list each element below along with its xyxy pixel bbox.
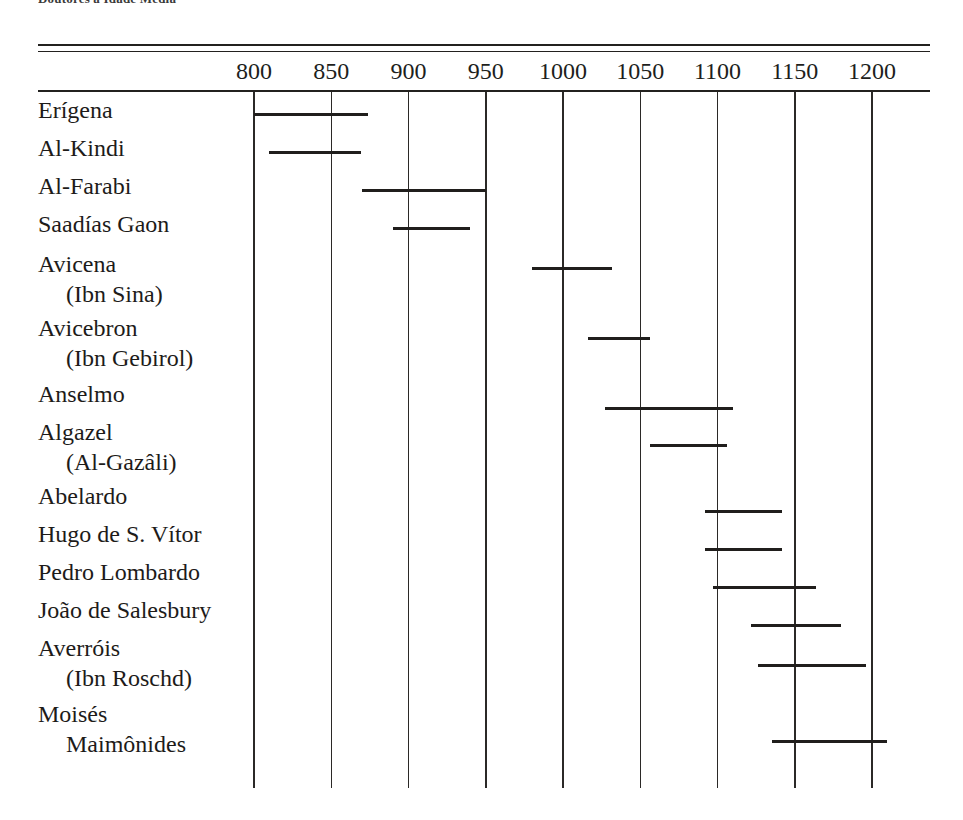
- lifespan-bar: [650, 444, 727, 447]
- row-label: João de Salesbury: [38, 596, 211, 624]
- x-axis-tick-950: 950: [468, 56, 504, 86]
- timeline-chart: Doutores a Idade Media 80085090095010001…: [0, 0, 963, 820]
- row-name: Moisés: [38, 701, 107, 727]
- row-name: Al-Farabi: [38, 173, 131, 199]
- header-rule-lower: [38, 51, 930, 52]
- row-label: Al-Farabi: [38, 172, 131, 200]
- row-name: Abelardo: [38, 483, 127, 509]
- lifespan-bar: [713, 586, 817, 589]
- row-label: Abelardo: [38, 482, 127, 510]
- x-axis-tick-900: 900: [391, 56, 427, 86]
- row-subname: (Al-Gazâli): [38, 448, 177, 476]
- row-name: Avicena: [38, 251, 116, 277]
- row-name: Pedro Lombardo: [38, 559, 200, 585]
- x-axis-tick-1000: 1000: [539, 56, 587, 86]
- row-label: Hugo de S. Vítor: [38, 520, 202, 548]
- lifespan-bar: [269, 151, 360, 154]
- row-subname: (Ibn Roschd): [38, 664, 192, 692]
- header-rule-upper: [38, 44, 930, 46]
- x-axis-tick-1150: 1150: [771, 56, 818, 86]
- row-name: João de Salesbury: [38, 597, 211, 623]
- row-subname: (Ibn Gebirol): [38, 344, 193, 372]
- x-axis-tick-1050: 1050: [616, 56, 664, 86]
- row-subname: Maimônides: [38, 730, 186, 758]
- lifespan-bar: [532, 267, 612, 270]
- row-label: Al-Kindi: [38, 134, 125, 162]
- row-label: MoisésMaimônides: [38, 700, 186, 758]
- x-axis-tick-800: 800: [236, 56, 272, 86]
- lifespan-bar: [588, 337, 650, 340]
- lifespan-bar: [605, 407, 733, 410]
- cropped-caption: Doutores a Idade Media: [38, 0, 438, 5]
- row-label: Algazel(Al-Gazâli): [38, 418, 177, 476]
- row-name: Al-Kindi: [38, 135, 125, 161]
- x-axis-tick-1100: 1100: [694, 56, 741, 86]
- row-label: Avicebron(Ibn Gebirol): [38, 314, 193, 372]
- row-label: Pedro Lombardo: [38, 558, 200, 586]
- lifespan-bar: [705, 548, 782, 551]
- row-label: Averróis(Ibn Roschd): [38, 634, 192, 692]
- row-name: Hugo de S. Vítor: [38, 521, 202, 547]
- lifespan-bar: [758, 664, 866, 667]
- row-subname: (Ibn Sina): [38, 280, 163, 308]
- lifespan-bar: [751, 624, 841, 627]
- row-name: Erígena: [38, 97, 113, 123]
- lifespan-bar: [705, 510, 782, 513]
- x-axis-tick-labels: 80085090095010001050110011501200: [0, 56, 963, 88]
- x-axis-tick-850: 850: [313, 56, 349, 86]
- row-name: Saadías Gaon: [38, 211, 169, 237]
- row-name: Anselmo: [38, 381, 125, 407]
- row-name: Averróis: [38, 635, 120, 661]
- row-name: Avicebron: [38, 315, 138, 341]
- row-label: Anselmo: [38, 380, 125, 408]
- lifespan-bar: [772, 740, 888, 743]
- row-name: Algazel: [38, 419, 113, 445]
- row-label: Erígena: [38, 96, 113, 124]
- lifespan-bar: [393, 227, 470, 230]
- x-axis-tick-1200: 1200: [848, 56, 896, 86]
- row-label: Avicena(Ibn Sina): [38, 250, 163, 308]
- row-label: Saadías Gaon: [38, 210, 169, 238]
- lifespan-bar: [254, 113, 368, 116]
- lifespan-bar: [362, 189, 486, 192]
- row-list: ErígenaAl-KindiAl-FarabiSaadías GaonAvic…: [0, 92, 963, 792]
